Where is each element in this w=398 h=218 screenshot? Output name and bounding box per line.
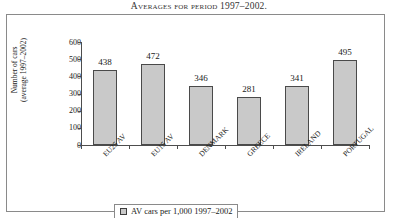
bar-value-label: 346	[181, 73, 221, 84]
x-tick-mark	[81, 145, 82, 149]
figure-caption: Averages for period 1997–2002.	[0, 0, 398, 13]
bar-value-label: 341	[277, 73, 317, 84]
bar-value-label: 438	[85, 57, 125, 68]
y-tick-mark	[78, 59, 82, 60]
bar-portugal[interactable]	[333, 60, 357, 145]
legend: AV cars per 1,000 1997–2002	[114, 204, 238, 218]
x-tick-mark	[273, 145, 274, 149]
legend-swatch-icon	[120, 208, 127, 215]
x-tick-mark	[369, 145, 370, 149]
figure-frame: Number of cars (average 1997–2002) 60050…	[6, 14, 385, 212]
bar-value-label: 495	[325, 47, 365, 58]
bar-denmark[interactable]	[189, 86, 213, 145]
y-tick-mark	[78, 94, 82, 95]
plot-area: 6005004003002001000 438472346281341495 E…	[81, 42, 369, 146]
x-tick-mark	[321, 145, 322, 149]
bar-eu25-av[interactable]	[93, 70, 117, 145]
y-axis-title-line2: (average 1997–2002)	[19, 22, 28, 118]
bar-value-label: 281	[229, 84, 269, 95]
y-tick-mark	[78, 111, 82, 112]
bar-eu15-av[interactable]	[141, 64, 165, 145]
x-tick-mark	[129, 145, 130, 149]
y-axis-title: Number of cars (average 1997–2002)	[10, 22, 40, 118]
legend-label: AV cars per 1,000 1997–2002	[131, 206, 232, 217]
y-axis-title-line1: Number of cars	[10, 22, 19, 118]
bar-ireland[interactable]	[285, 86, 309, 145]
x-tick-mark	[177, 145, 178, 149]
x-tick-mark	[225, 145, 226, 149]
y-tick-mark	[78, 76, 82, 77]
bar-value-label: 472	[133, 51, 173, 62]
y-tick-mark	[78, 128, 82, 129]
y-tick-mark	[78, 42, 82, 43]
